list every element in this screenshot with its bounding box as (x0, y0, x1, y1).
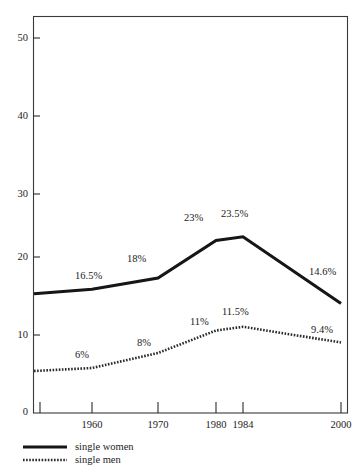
data-label-women-1960: 16.5% (75, 270, 102, 281)
chart-legend: single women single men (22, 440, 222, 466)
y-tick-label-10: 10 (6, 329, 28, 340)
legend-swatch-solid-line-icon (22, 441, 68, 453)
x-tick-label-1960: 1960 (70, 419, 114, 430)
chart-container: 50 40 30 20 10 0 1960 1970 1980 1984 200… (0, 0, 364, 473)
x-tick-label-1970: 1970 (136, 419, 180, 430)
data-label-women-1970: 18% (127, 253, 146, 264)
data-label-men-1984: 11.5% (222, 306, 249, 317)
legend-item-single-women: single women (22, 440, 222, 453)
legend-label-single-men: single men (75, 454, 121, 465)
y-tick-label-50: 50 (6, 32, 28, 43)
y-tick-label-40: 40 (6, 110, 28, 121)
y-tick-label-0: 0 (6, 406, 28, 417)
y-tick-label-30: 30 (6, 188, 28, 199)
data-label-men-1980: 11% (190, 316, 209, 327)
legend-label-single-women: single women (75, 441, 134, 452)
data-label-men-2000: 9.4% (311, 324, 333, 335)
data-label-women-1984: 23.5% (221, 208, 248, 219)
x-tick-label-1984: 1984 (221, 419, 265, 430)
data-label-women-2000: 14.6% (309, 266, 336, 277)
legend-swatch-dotted-line-icon (22, 454, 68, 466)
data-label-men-1960: 6% (75, 349, 89, 360)
data-label-men-1970: 8% (137, 337, 151, 348)
legend-item-single-men: single men (22, 453, 222, 466)
chart-plot-area (0, 0, 364, 473)
y-tick-label-20: 20 (6, 251, 28, 262)
x-axis-ticks (40, 402, 341, 413)
x-tick-label-2000: 2000 (319, 419, 363, 430)
data-label-women-1980: 23% (184, 212, 203, 223)
